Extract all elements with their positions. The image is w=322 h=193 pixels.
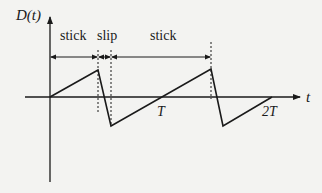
tick-label-T: T — [157, 104, 166, 119]
phase-label-slip: slip — [97, 28, 117, 43]
x-axis-label: t — [306, 89, 311, 105]
phase-label-stick-1: stick — [60, 28, 86, 43]
phase-label-stick-2: stick — [150, 28, 176, 43]
y-axis-label: D(t) — [15, 7, 41, 24]
stick-slip-diagram: D(t) t stick slip stick T 2T — [0, 0, 322, 193]
tick-label-2T: 2T — [262, 104, 278, 119]
